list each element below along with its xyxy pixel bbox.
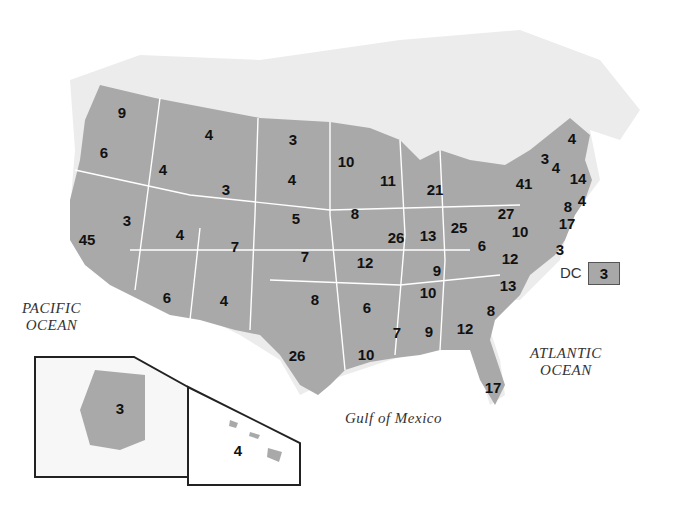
state-electoral-votes-ne: 5	[292, 210, 300, 227]
pacific-line-2: OCEAN	[22, 317, 81, 334]
state-electoral-votes-ny: 41	[516, 175, 533, 192]
state-electoral-votes-ut: 4	[176, 226, 184, 243]
state-electoral-votes-me: 4	[568, 130, 576, 147]
state-electoral-votes-wi: 11	[380, 172, 396, 189]
state-electoral-votes-ar: 6	[363, 299, 371, 316]
state-electoral-votes-ca: 45	[79, 231, 96, 248]
state-electoral-votes-sd: 4	[288, 171, 296, 188]
state-electoral-votes-ga: 12	[457, 320, 474, 337]
state-electoral-votes-ak: 3	[116, 400, 124, 417]
state-electoral-votes-wy: 3	[222, 181, 230, 198]
state-electoral-votes-hi: 4	[234, 442, 242, 459]
state-electoral-votes-tx: 26	[289, 347, 306, 364]
gulf-of-mexico-label: Gulf of Mexico	[345, 410, 442, 427]
state-electoral-votes-pa: 27	[498, 205, 515, 222]
state-electoral-votes-tn: 10	[420, 284, 437, 301]
dc-label: DC	[560, 264, 582, 281]
map-shapes	[0, 0, 678, 517]
state-electoral-votes-mo: 12	[357, 254, 374, 271]
state-electoral-votes-la: 10	[358, 346, 375, 363]
state-electoral-votes-ok: 8	[311, 291, 319, 308]
state-electoral-votes-oh: 25	[451, 219, 468, 236]
atlantic-line-1: ATLANTIC	[530, 345, 602, 362]
state-electoral-votes-ky: 9	[433, 262, 441, 279]
state-electoral-votes-nv: 3	[123, 212, 131, 229]
state-electoral-votes-va: 12	[502, 250, 519, 267]
state-electoral-votes-ri: 4	[578, 192, 586, 209]
state-electoral-votes-mt: 4	[205, 126, 213, 143]
state-electoral-votes-ks: 7	[301, 248, 309, 265]
state-electoral-votes-nh: 4	[552, 159, 560, 176]
state-electoral-votes-mi: 21	[427, 181, 444, 198]
state-electoral-votes-al: 9	[425, 323, 433, 340]
state-electoral-votes-nm: 4	[220, 292, 228, 309]
state-electoral-votes-fl: 17	[485, 379, 502, 396]
state-electoral-votes-ct: 8	[564, 198, 572, 215]
state-electoral-votes-ms: 7	[393, 324, 401, 341]
state-electoral-votes-nd: 3	[289, 131, 297, 148]
state-electoral-votes-id: 4	[159, 161, 167, 178]
state-electoral-votes-wa: 9	[118, 104, 126, 121]
state-electoral-votes-nc: 13	[500, 277, 517, 294]
pacific-ocean-label: PACIFIC OCEAN	[22, 300, 81, 334]
state-electoral-votes-wv: 6	[478, 237, 486, 254]
pacific-line-1: PACIFIC	[22, 300, 81, 317]
state-electoral-votes-ma: 14	[570, 170, 587, 187]
state-electoral-votes-md: 10	[512, 223, 529, 240]
electoral-map: 9644334578263454764108126101126211325910…	[0, 0, 678, 517]
atlantic-line-2: OCEAN	[530, 362, 602, 379]
dc-value-box: 3	[588, 262, 620, 285]
atlantic-ocean-label: ATLANTIC OCEAN	[530, 345, 602, 379]
state-electoral-votes-ia: 8	[351, 205, 359, 222]
state-electoral-votes-az: 6	[163, 289, 171, 306]
state-electoral-votes-vt: 3	[541, 150, 549, 167]
state-electoral-votes-de: 3	[556, 241, 564, 258]
state-electoral-votes-il: 26	[388, 229, 405, 246]
state-electoral-votes-mn: 10	[338, 153, 355, 170]
state-electoral-votes-nj: 17	[559, 215, 576, 232]
state-electoral-votes-in: 13	[420, 227, 437, 244]
state-electoral-votes-or: 6	[100, 144, 108, 161]
state-electoral-votes-sc: 8	[487, 302, 495, 319]
state-electoral-votes-co: 7	[231, 238, 239, 255]
